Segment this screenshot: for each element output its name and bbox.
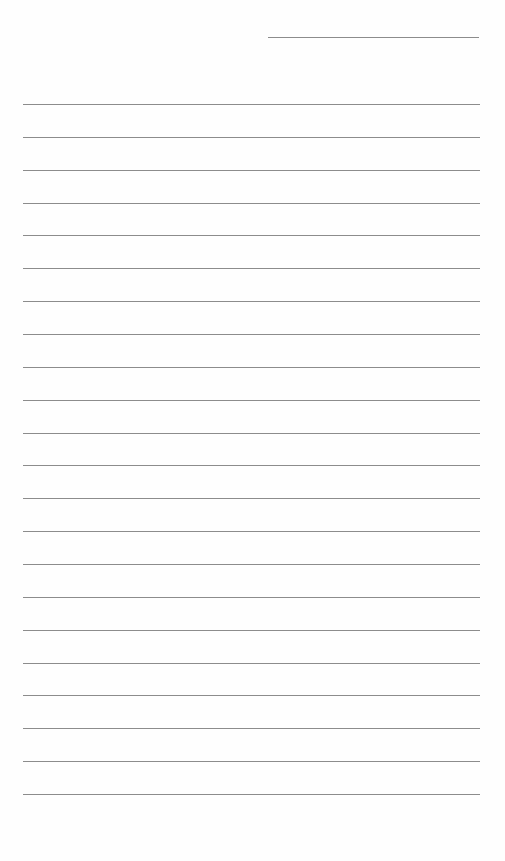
ruled-line bbox=[23, 663, 480, 664]
ruled-line bbox=[23, 761, 480, 762]
ruled-line bbox=[23, 564, 480, 565]
ruled-line bbox=[23, 334, 480, 335]
ruled-line bbox=[23, 367, 480, 368]
ruled-line bbox=[23, 433, 480, 434]
header-date-line bbox=[268, 37, 479, 38]
ruled-line bbox=[23, 400, 480, 401]
ruled-line bbox=[23, 794, 480, 795]
ruled-line bbox=[23, 531, 480, 532]
lined-paper-page bbox=[0, 0, 505, 861]
ruled-line bbox=[23, 104, 480, 105]
ruled-line bbox=[23, 268, 480, 269]
ruled-line bbox=[23, 137, 480, 138]
ruled-line bbox=[23, 630, 480, 631]
ruled-line bbox=[23, 203, 480, 204]
ruled-line bbox=[23, 301, 480, 302]
ruled-line bbox=[23, 465, 480, 466]
ruled-line bbox=[23, 597, 480, 598]
ruled-line bbox=[23, 728, 480, 729]
ruled-line bbox=[23, 235, 480, 236]
ruled-line bbox=[23, 170, 480, 171]
ruled-line bbox=[23, 695, 480, 696]
ruled-line bbox=[23, 498, 480, 499]
